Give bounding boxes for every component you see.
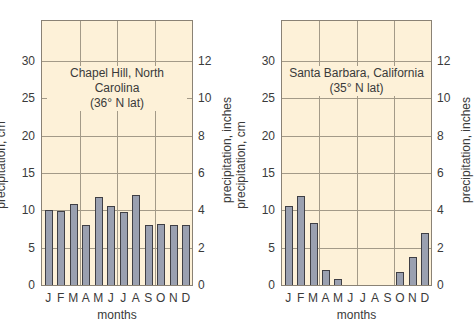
x-axis-label: months (281, 308, 432, 322)
x-tick-label-month: D (419, 291, 431, 305)
bar-m-2 (310, 223, 318, 285)
gridline-vertical (319, 21, 320, 285)
y-tick-label-cm: 5 (251, 242, 275, 254)
gridline-vertical (357, 21, 358, 285)
x-tick-label-month: M (332, 291, 344, 305)
y-tick-label-inches: 12 (437, 55, 461, 67)
bar-f-1 (297, 196, 305, 285)
gridline-vertical (394, 21, 395, 285)
bar-d-11 (421, 233, 429, 285)
y-tick-label-inches: 10 (437, 92, 461, 104)
bar-n-10 (409, 257, 417, 285)
x-tick-label-month: J (344, 291, 356, 305)
y-tick-label-cm: 10 (251, 204, 275, 216)
x-tick-label-month: J (282, 291, 294, 305)
x-tick-label-month: M (307, 291, 319, 305)
y-axis-label-cm: precipitation, cm (234, 105, 248, 225)
bar-a-3 (322, 270, 330, 285)
x-tick-label-month: N (406, 291, 418, 305)
y-axis-label-inches: precipitation, inches (459, 85, 473, 215)
y-tick-label-inches: 4 (437, 204, 461, 216)
y-tick-label-inches: 6 (437, 167, 461, 179)
bar-o-9 (396, 272, 404, 285)
plot-area (281, 20, 432, 286)
bar-m-4 (334, 279, 342, 285)
y-tick-label-cm: 0 (251, 279, 275, 291)
y-tick-label-cm: 15 (251, 167, 275, 179)
chart-title: Santa Barbara, California(35° N lat) (287, 66, 426, 96)
bar-j-0 (285, 206, 293, 285)
x-tick-label-month: A (369, 291, 381, 305)
y-tick-label-cm: 20 (251, 130, 275, 142)
y-tick-label-cm: 25 (251, 92, 275, 104)
chart-title-latitude: (35° N lat) (287, 81, 426, 96)
x-tick-label-month: O (394, 291, 406, 305)
x-tick-label-month: A (319, 291, 331, 305)
y-tick-label-inches: 2 (437, 242, 461, 254)
y-tick-label-inches: 0 (437, 279, 461, 291)
y-tick-label-inches: 8 (437, 130, 461, 142)
x-tick-label-month: J (357, 291, 369, 305)
x-tick-label-month: F (295, 291, 307, 305)
chart-santa-barbara: 051015202530024681012JFMAMJJASONDmonthsp… (0, 0, 238, 328)
x-tick-label-month: S (382, 291, 394, 305)
y-tick-label-cm: 30 (251, 55, 275, 67)
chart-title-location: Santa Barbara, California (287, 66, 426, 81)
